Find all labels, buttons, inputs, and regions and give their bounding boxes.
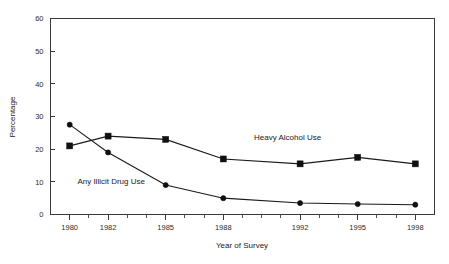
y-tick-label: 0	[39, 210, 43, 219]
x-tick-label: 1988	[215, 223, 232, 232]
y-tick-label: 10	[35, 178, 43, 187]
series-1	[67, 133, 419, 167]
x-tick-label: 1985	[157, 223, 174, 232]
x-axis-tick-labels: 1980198219851988199219951998	[61, 223, 423, 232]
series-annotations: Heavy Alcohol UseAny Illicit Drug Use	[77, 133, 321, 186]
data-point-square	[67, 143, 73, 149]
data-point-circle	[413, 202, 418, 207]
y-tick-label: 30	[35, 112, 43, 121]
x-tick-label: 1982	[100, 223, 117, 232]
x-tick-label: 1980	[61, 223, 78, 232]
x-axis-title: Year of Survey	[216, 241, 268, 250]
series-label-2: Any Illicit Drug Use	[77, 177, 145, 186]
data-point-square	[163, 136, 169, 142]
data-point-square	[355, 154, 361, 160]
data-point-circle	[106, 150, 111, 155]
y-axis-tick-labels: 0102030405060	[35, 14, 43, 219]
data-point-square	[220, 156, 226, 162]
data-point-square	[297, 161, 303, 167]
y-tick-label: 60	[35, 14, 43, 23]
x-axis-ticks	[70, 215, 416, 220]
x-tick-label: 1995	[349, 223, 366, 232]
x-tick-label: 1998	[407, 223, 424, 232]
data-point-square	[105, 133, 111, 139]
data-series-layer	[67, 122, 419, 207]
line-chart: 0102030405060 19801982198519881992199519…	[0, 0, 449, 264]
y-tick-label: 50	[35, 47, 43, 56]
data-point-circle	[163, 183, 168, 188]
data-point-circle	[355, 201, 360, 206]
y-axis-title: Percentage	[8, 96, 17, 137]
data-point-square	[412, 161, 418, 167]
series-2	[67, 122, 418, 207]
y-tick-label: 40	[35, 80, 43, 89]
x-tick-label: 1992	[292, 223, 309, 232]
data-point-circle	[298, 200, 303, 205]
y-axis-ticks	[51, 19, 55, 215]
data-point-circle	[221, 196, 226, 201]
data-point-circle	[67, 122, 72, 127]
y-tick-label: 20	[35, 145, 43, 154]
series-label-1: Heavy Alcohol Use	[254, 133, 322, 142]
chart-container: 0102030405060 19801982198519881992199519…	[0, 0, 449, 264]
